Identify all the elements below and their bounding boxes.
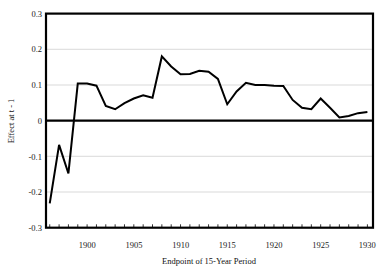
x-tick-label: 1925 [312, 240, 329, 250]
y-tick-label: -0.3 [29, 223, 42, 233]
x-tick-label: 1900 [79, 240, 96, 250]
y-axis-title: Effect at t - 1 [6, 99, 16, 144]
series-line-effect [50, 56, 368, 203]
x-tick-label: 1930 [359, 240, 376, 250]
y-tick-label: 0.3 [31, 9, 42, 19]
line-chart: 0.3 0.2 0.1 0 -0.1 -0.2 -0.3 1900 1905 1… [0, 0, 386, 275]
x-tick-label: 1915 [219, 240, 236, 250]
y-tick-label: -0.2 [29, 187, 42, 197]
x-tick-label: 1910 [172, 240, 189, 250]
y-tick-label: 0.2 [31, 44, 42, 54]
chart-container: 0.3 0.2 0.1 0 -0.1 -0.2 -0.3 1900 1905 1… [0, 0, 386, 275]
x-tick-label: 1905 [126, 240, 143, 250]
x-tick-label: 1920 [266, 240, 283, 250]
x-axis-title: Endpoint of 15-Year Period [162, 256, 257, 266]
y-tick-label: 0.1 [31, 80, 42, 90]
y-tick-label: -0.1 [29, 152, 42, 162]
y-tick-labels: 0.3 0.2 0.1 0 -0.1 -0.2 -0.3 [29, 9, 42, 233]
y-tick-label: 0 [38, 116, 42, 126]
x-tick-labels: 1900 1905 1910 1915 1920 1925 1930 [79, 240, 376, 250]
